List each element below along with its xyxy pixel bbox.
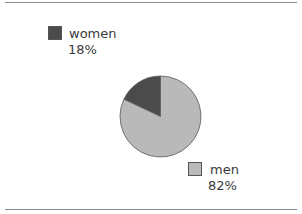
pie-slices: [120, 76, 201, 157]
legend-swatch-women: [48, 26, 62, 40]
legend-value-women: 18%: [68, 42, 97, 57]
legend-label-men: men: [210, 162, 239, 177]
pie-chart: [0, 0, 302, 214]
legend-value-men: 82%: [208, 178, 237, 193]
bottom-rule: [5, 209, 297, 210]
legend-label-women: women: [69, 26, 117, 41]
legend-swatch-men: [188, 162, 202, 176]
